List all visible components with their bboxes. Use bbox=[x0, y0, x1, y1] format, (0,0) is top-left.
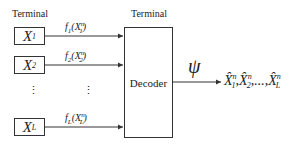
right-terminal-label: Terminal bbox=[131, 8, 167, 19]
source-symbol: X bbox=[23, 28, 32, 45]
left-terminal-label: Terminal bbox=[12, 8, 48, 19]
encoding-label-1: f1(Xn1) bbox=[65, 20, 86, 35]
source-index: 2 bbox=[32, 61, 36, 70]
vertical-ellipsis-sources: ⋮ bbox=[28, 88, 39, 93]
vertical-ellipsis-functions: ⋮ bbox=[83, 88, 94, 93]
output-estimates: X̂n1,X̂n2,...,X̂nL bbox=[224, 72, 280, 90]
encoding-label-L: fL(XnL) bbox=[65, 111, 87, 126]
source-symbol: X bbox=[23, 57, 32, 74]
source-symbol: X bbox=[23, 119, 32, 136]
source-box-2: X2 bbox=[14, 56, 45, 74]
source-box-L: XL bbox=[14, 118, 45, 136]
decoder-label: Decoder bbox=[130, 77, 167, 89]
encoding-label-2: f2(Xn2) bbox=[65, 49, 86, 64]
source-box-1: X1 bbox=[14, 27, 45, 45]
psi-label: ψ bbox=[188, 55, 200, 78]
decoder-box: Decoder bbox=[124, 27, 173, 138]
source-index: L bbox=[32, 123, 36, 132]
source-index: 1 bbox=[32, 32, 36, 41]
